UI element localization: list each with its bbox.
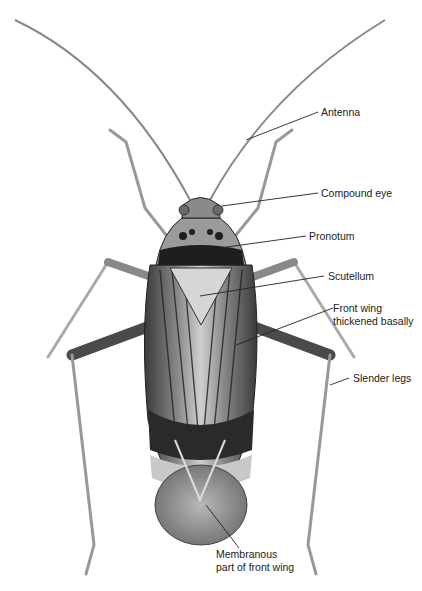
label-antenna: Antenna xyxy=(321,106,360,119)
label-text: part of front wing xyxy=(216,561,294,574)
label-compound-eye: Compound eye xyxy=(321,187,392,200)
label-slender-legs: Slender legs xyxy=(353,372,411,385)
label-text: Scutellum xyxy=(328,270,374,283)
label-text: Antenna xyxy=(321,106,360,119)
label-text: Front wing xyxy=(333,302,414,315)
label-text: Membranous xyxy=(216,548,294,561)
label-text: Compound eye xyxy=(321,187,392,200)
label-text: thickened basally xyxy=(333,315,414,328)
label-scutellum: Scutellum xyxy=(328,270,374,283)
label-text: Pronotum xyxy=(309,230,355,243)
insect-body xyxy=(144,198,257,546)
label-front-wing: Front wing thickened basally xyxy=(333,302,414,327)
label-membranous: Membranous part of front wing xyxy=(216,548,294,573)
insect-illustration xyxy=(0,0,422,591)
label-text: Slender legs xyxy=(353,372,411,385)
label-pronotum: Pronotum xyxy=(309,230,355,243)
